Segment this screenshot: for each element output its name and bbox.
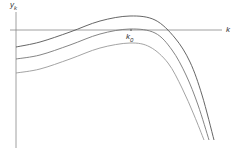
curve-lower bbox=[16, 43, 204, 140]
y-axis-label: yk bbox=[10, 1, 17, 11]
k0-annotation: k0 bbox=[126, 33, 133, 43]
k0-label-subscript: 0 bbox=[130, 37, 133, 43]
chart-canvas bbox=[0, 0, 232, 155]
curve-upper bbox=[16, 16, 214, 140]
x-axis-label: k bbox=[226, 26, 230, 34]
y-label-subscript: k bbox=[14, 5, 17, 11]
